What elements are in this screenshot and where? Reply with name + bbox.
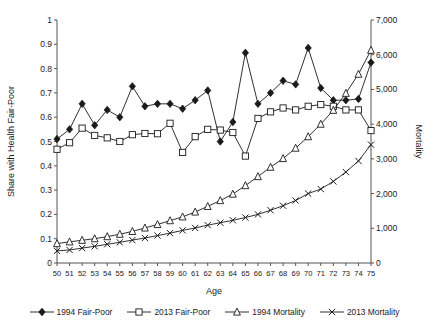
x-axis-tick-label: 69 [291,269,299,278]
data-point-2013-mortality [280,203,286,209]
x-axis-title: Age [206,286,222,296]
data-point-1994-mortality [368,46,375,53]
data-point-2013-fair-poor [104,135,110,141]
data-point-1994-mortality [229,190,236,197]
x-axis-tick-label: 73 [342,269,350,278]
data-point-1994-mortality [179,213,186,220]
data-point-2013-mortality [242,214,248,220]
x-axis-tick-label: 60 [178,269,186,278]
legend-item-1994-fair-poor: 1994 Fair-Poor [29,306,113,318]
legend-marker-open-triangle [224,306,250,318]
data-point-1994-mortality [292,144,299,151]
y-axis-left-title: Share with Health Fair-Poor [6,86,16,197]
data-point-1994-fair-poor [180,105,186,112]
y-axis-right-tick-label: 0 [376,258,381,268]
y-axis-left-tick-label: 0.2 [40,209,52,219]
y-axis-left-tick-label: 0.6 [40,112,52,122]
series-line-2013-mortality [57,145,371,251]
data-point-1994-mortality [267,163,274,170]
y-axis-right-tick-label: 4,000 [376,119,398,129]
x-axis-tick-label: 72 [329,269,337,278]
chart-figure: 00.10.20.30.40.50.60.70.80.9101,0002,000… [0,0,428,333]
data-point-1994-fair-poor [305,44,311,51]
y-axis-left-tick-label: 0.5 [40,137,52,147]
data-point-2013-fair-poor [192,134,198,140]
data-point-2013-fair-poor [355,107,361,113]
data-point-2013-fair-poor [242,153,248,159]
data-point-2013-fair-poor [117,138,123,144]
x-axis-tick-label: 62 [203,269,211,278]
data-point-2013-fair-poor [167,120,173,126]
data-point-2013-mortality [330,178,336,184]
x-axis-tick-label: 67 [266,269,274,278]
data-point-1994-mortality [255,173,262,180]
y-axis-left-tick-label: 0.1 [40,234,52,244]
chart-legend: 1994 Fair-Poor2013 Fair-Poor1994 Mortali… [0,306,428,318]
legend-marker-filled-diamond [29,306,55,318]
y-axis-left-tick-label: 1 [47,15,52,25]
legend-item-1994-mortality: 1994 Mortality [224,306,305,318]
data-point-1994-fair-poor [343,96,349,103]
x-axis-tick-label: 61 [191,269,199,278]
data-point-2013-fair-poor [368,127,374,133]
data-point-2013-mortality [267,207,273,213]
x-axis-tick-label: 57 [141,269,149,278]
series-line-2013-fair-poor [57,105,371,157]
x-axis-tick-label: 51 [65,269,73,278]
y-axis-right-tick-label: 5,000 [376,84,398,94]
y-axis-right-tick-label: 3,000 [376,154,398,164]
data-point-1994-fair-poor [293,81,299,88]
legend-item-2013-mortality: 2013 Mortality [319,306,400,318]
data-point-2013-mortality [305,190,311,196]
data-point-1994-fair-poor [66,126,72,133]
data-point-1994-fair-poor [154,100,160,107]
data-point-1994-mortality [242,182,249,189]
x-axis-tick-label: 74 [354,269,362,278]
data-point-2013-fair-poor [142,130,148,136]
y-axis-left-tick-label: 0.7 [40,88,52,98]
data-point-1994-fair-poor [355,95,361,102]
data-point-2013-fair-poor [280,105,286,111]
y-axis-left-tick-label: 0.8 [40,64,52,74]
data-point-1994-fair-poor [79,100,85,107]
y-axis-left-tick-label: 0.4 [40,161,52,171]
legend-item-label: 1994 Fair-Poor [57,307,113,317]
y-axis-right-title: Mortality [414,124,424,159]
data-point-2013-mortality [255,211,261,217]
data-point-1994-fair-poor [205,87,211,94]
data-point-2013-mortality [355,158,361,164]
data-point-2013-fair-poor [180,149,186,155]
data-point-1994-fair-poor [129,83,135,90]
legend-item-label: 1994 Mortality [252,307,305,317]
data-point-2013-fair-poor [255,115,261,121]
legend-item-label: 2013 Fair-Poor [154,307,210,317]
x-axis-tick-label: 66 [254,269,262,278]
data-point-1994-fair-poor [192,96,198,103]
x-axis-tick-label: 55 [116,269,124,278]
x-axis-tick-label: 52 [78,269,86,278]
x-axis-tick-label: 63 [216,269,224,278]
x-axis-tick-label: 50 [53,269,61,278]
data-point-1994-mortality [217,197,224,204]
data-point-2013-mortality [343,169,349,175]
x-axis-tick-label: 75 [367,269,375,278]
legend-item-2013-fair-poor: 2013 Fair-Poor [126,306,210,318]
chart-canvas: 00.10.20.30.40.50.60.70.80.9101,0002,000… [0,0,428,333]
y-axis-left-tick-label: 0.9 [40,39,52,49]
y-axis-left-tick-label: 0.3 [40,185,52,195]
y-axis-right-tick-label: 7,000 [376,15,398,25]
data-point-1994-fair-poor [117,114,123,121]
data-point-1994-fair-poor [167,100,173,107]
x-axis-tick-label: 68 [279,269,287,278]
x-axis-tick-label: 64 [229,269,237,278]
data-point-1994-mortality [355,70,362,77]
data-point-2013-fair-poor [318,101,324,107]
y-axis-left-tick-label: 0 [47,258,52,268]
legend-item-label: 2013 Mortality [347,307,400,317]
x-axis-tick-label: 71 [317,269,325,278]
data-point-1994-mortality [192,208,199,215]
data-point-2013-fair-poor [129,132,135,138]
data-point-1994-fair-poor [242,49,248,56]
data-point-2013-fair-poor [267,109,273,115]
x-axis-tick-label: 59 [166,269,174,278]
